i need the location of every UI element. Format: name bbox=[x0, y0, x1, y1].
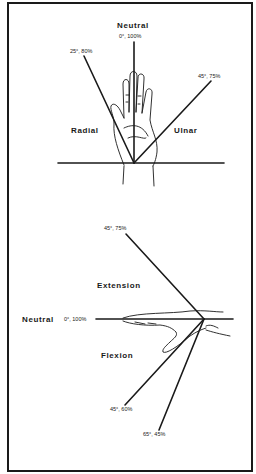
extension-value: 45°, 75% bbox=[104, 226, 126, 232]
bottom-neutral-label: Neutral bbox=[22, 316, 54, 324]
radial-label: Radial bbox=[71, 127, 99, 135]
bottom-hand-icon bbox=[123, 311, 230, 353]
extension-label: Extension bbox=[97, 282, 141, 290]
radial-line bbox=[84, 56, 134, 163]
flexion-label: Flexion bbox=[101, 352, 133, 360]
flexion-65-value: 65°, 45% bbox=[143, 432, 165, 438]
ulnar-label: Ulnar bbox=[174, 127, 197, 135]
extension-line bbox=[126, 234, 204, 319]
flexion-65-line bbox=[159, 319, 204, 430]
radial-value: 25°, 80% bbox=[70, 49, 92, 55]
flexion-45-line bbox=[125, 319, 204, 405]
flexion-45-value: 45°, 60% bbox=[110, 407, 132, 413]
top-neutral-label: Neutral bbox=[117, 22, 149, 30]
top-angle-lines bbox=[58, 42, 224, 163]
wrist-posture-diagram bbox=[0, 0, 256, 474]
top-neutral-value: 0°, 100% bbox=[119, 34, 141, 40]
bottom-neutral-value: 0°, 100% bbox=[64, 317, 86, 323]
ulnar-value: 45°, 75% bbox=[198, 74, 220, 80]
